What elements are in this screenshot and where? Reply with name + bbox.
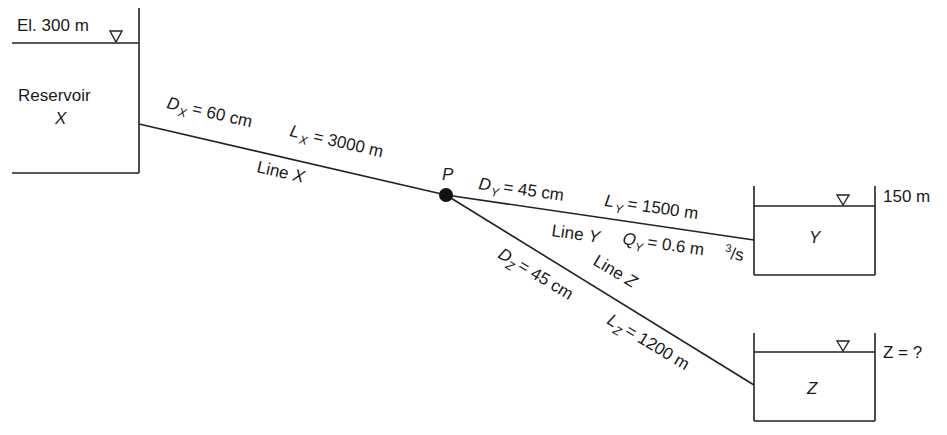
line-z-diameter: D Z = 45 cm bbox=[493, 244, 577, 307]
svg-text:= 45 cm: = 45 cm bbox=[515, 256, 577, 304]
svg-text:Y: Y bbox=[614, 202, 625, 217]
reservoir-y-letter: Y bbox=[809, 228, 822, 247]
svg-text:Line: Line bbox=[590, 251, 627, 284]
svg-text:= 45 cm: = 45 cm bbox=[502, 178, 565, 205]
reservoir-y: 150 m Y bbox=[754, 186, 930, 275]
svg-text:L: L bbox=[603, 191, 615, 211]
pipe-line-z bbox=[446, 195, 754, 385]
reservoir-x: El. 300 m Reservoir X bbox=[12, 8, 139, 173]
water-surface-triangle-icon bbox=[837, 195, 849, 205]
line-x-diameter: D X = 60 cm bbox=[164, 93, 254, 135]
reservoir-z-letter: Z bbox=[806, 379, 818, 398]
svg-text:X: X bbox=[290, 165, 307, 186]
svg-text:Y: Y bbox=[634, 240, 645, 255]
svg-text:Line: Line bbox=[550, 221, 584, 244]
reservoir-x-name: Reservoir bbox=[18, 86, 91, 105]
svg-text:= 60 cm: = 60 cm bbox=[190, 99, 254, 131]
line-y-diameter: D Y = 45 cm bbox=[477, 174, 565, 209]
reservoir-z-elevation: Z = ? bbox=[883, 343, 922, 362]
line-z-name: Line Z bbox=[590, 251, 641, 292]
junction-p-label: P bbox=[442, 165, 454, 184]
svg-text:= 1500 m: = 1500 m bbox=[626, 194, 699, 223]
water-surface-triangle-icon bbox=[837, 341, 849, 351]
svg-text:Line: Line bbox=[255, 157, 291, 183]
junction-p-dot bbox=[439, 188, 453, 202]
svg-text:= 3000 m: = 3000 m bbox=[311, 127, 385, 162]
pipe-network-diagram: El. 300 m Reservoir X P D X = 60 cm L X … bbox=[0, 0, 947, 435]
line-y-flow: Q Y = 0.6 m 3 /s bbox=[621, 227, 746, 269]
reservoir-z: Z = ? Z bbox=[754, 333, 922, 421]
line-y-length: L Y = 1500 m bbox=[603, 191, 700, 227]
line-x-length: L X = 3000 m bbox=[287, 121, 385, 165]
svg-text:= 1200 m: = 1200 m bbox=[622, 321, 693, 374]
reservoir-x-elevation: El. 300 m bbox=[17, 16, 89, 35]
svg-text:/s: /s bbox=[729, 244, 745, 265]
line-y-name: Line Y bbox=[550, 221, 602, 247]
svg-text:= 0.6 m: = 0.6 m bbox=[646, 233, 705, 260]
line-z-length: L Z = 1200 m bbox=[602, 310, 693, 377]
svg-text:Y: Y bbox=[490, 185, 501, 200]
reservoir-y-elevation: 150 m bbox=[883, 187, 930, 206]
water-surface-triangle-icon bbox=[110, 31, 122, 42]
svg-text:Y: Y bbox=[587, 226, 603, 247]
reservoir-x-letter: X bbox=[54, 109, 67, 128]
